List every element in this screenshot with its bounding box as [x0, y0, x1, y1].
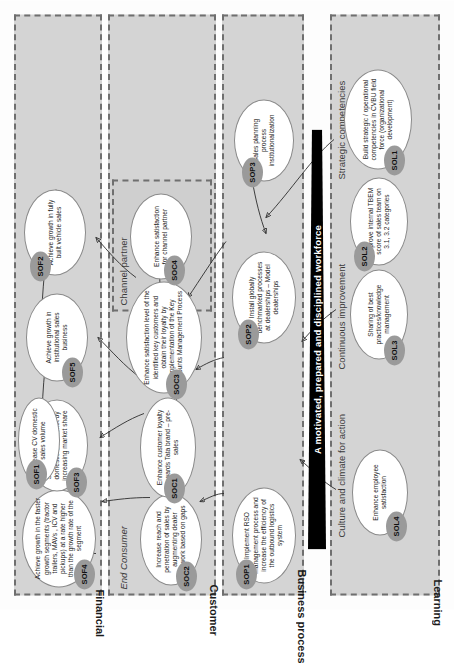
objective-text-sof2: Achieve growth in fully built vehicle sa…: [47, 197, 63, 267]
strategy-banner-text: A motivated, prepared and disciplined wo…: [312, 224, 323, 453]
objective-node-soc3[interactable]: Enhance satisfaction level of the identi…: [126, 281, 202, 393]
objective-badge-sol2[interactable]: SOL2: [354, 241, 375, 271]
objective-badge-sol3[interactable]: SOL3: [384, 335, 405, 365]
objective-badge-soc2[interactable]: SOC2: [176, 561, 197, 591]
perspective-label-financial: Financial: [94, 589, 106, 637]
objective-text-sol4: Enhance employee satisfaction: [372, 457, 388, 527]
perspective-label-customer: Customer: [208, 584, 220, 635]
objective-badge-sop1[interactable]: SOP1: [236, 559, 257, 589]
perspective-label-learning: Learning: [432, 579, 444, 625]
objective-badge-sof2[interactable]: SOF2: [30, 251, 51, 281]
perspective-label-business-process: Business process: [296, 569, 308, 663]
objective-badge-sof3[interactable]: SOF3: [66, 467, 87, 497]
objective-badge-soc4[interactable]: SOC4: [164, 255, 185, 285]
objective-badge-sof1[interactable]: SOF1: [26, 459, 47, 489]
objective-badge-sol1[interactable]: SOL1: [384, 145, 405, 175]
objective-badge-sol4[interactable]: SOL4: [386, 511, 407, 541]
objective-badge-sop3[interactable]: SOP3: [242, 157, 263, 187]
objective-badge-sof4[interactable]: SOF4: [74, 559, 95, 589]
sub-label-culture-climate: Culture and climate for action: [336, 413, 347, 537]
strategy-banner: A motivated, prepared and disciplined wo…: [308, 129, 326, 549]
objective-badge-soc1[interactable]: SOC1: [164, 473, 185, 503]
objective-badge-sop2[interactable]: SOP2: [238, 319, 259, 349]
sub-label-end-consumer: End Consumer: [118, 526, 129, 589]
objective-badge-sof5[interactable]: SOF5: [62, 357, 83, 387]
sub-label-channel-partner: Channel partner: [118, 237, 129, 305]
objective-badge-soc3[interactable]: SOC3: [166, 369, 187, 399]
sub-label-continuous-improvement: Continuous improvement: [336, 263, 347, 369]
